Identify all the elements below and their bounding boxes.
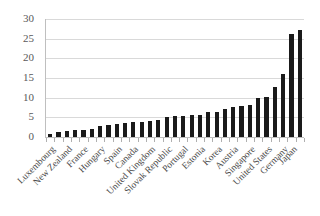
bar bbox=[48, 134, 52, 137]
y-axis-tick-label: 15 bbox=[23, 72, 34, 83]
y-axis-tick-label: 5 bbox=[29, 111, 35, 122]
bar-chart: 051015202530 LuxembourgNew ZealandFrance… bbox=[0, 0, 320, 216]
x-axis-labels: LuxembourgNew ZealandFranceHungarySpainC… bbox=[0, 142, 320, 216]
y-axis-tick-label: 30 bbox=[23, 13, 34, 24]
y-axis-tick-label: 10 bbox=[23, 92, 34, 103]
y-axis-tick-label: 0 bbox=[29, 131, 35, 142]
y-axis-tick-label: 25 bbox=[23, 33, 34, 44]
y-axis-tick-label: 20 bbox=[23, 52, 34, 63]
